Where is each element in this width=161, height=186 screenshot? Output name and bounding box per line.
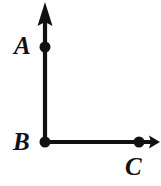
point-a-dot: [40, 42, 51, 53]
point-a-label: A: [14, 33, 31, 58]
point-c-label: C: [125, 154, 142, 179]
point-c-dot: [134, 137, 145, 148]
point-b-dot: [40, 137, 51, 148]
point-b-label: B: [13, 129, 30, 154]
